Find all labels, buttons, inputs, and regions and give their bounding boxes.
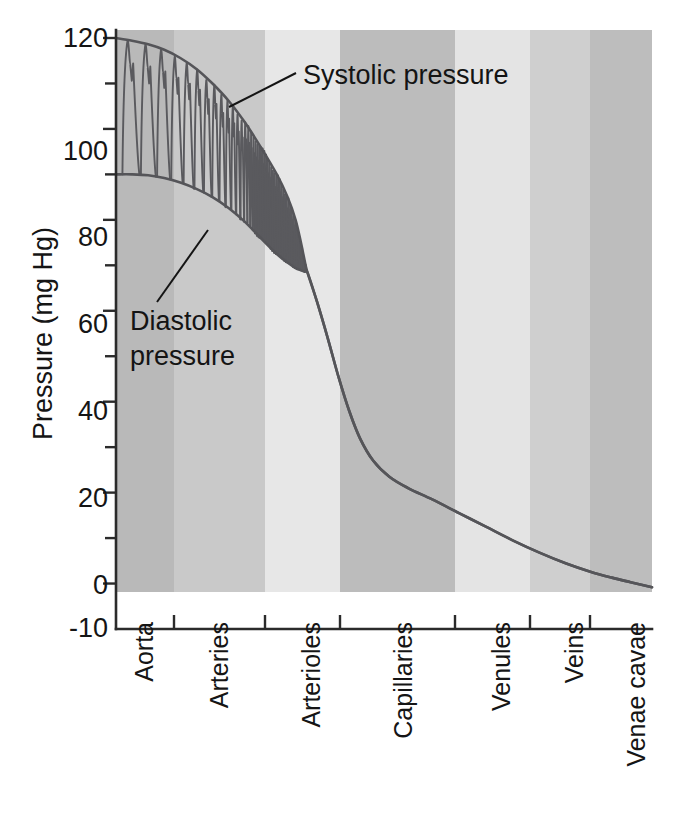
blood-pressure-chart: 120 100 80 60 40 20 0 -10 Pressure (mg H… (0, 0, 679, 819)
category-label-arterioles: Arterioles (297, 622, 325, 728)
diastolic-annotation-line1: Diastolic (130, 306, 232, 336)
y-axis-title: Pressure (mg Hg) (28, 227, 58, 440)
band-venae-cavae (590, 30, 652, 592)
y-tick-labels: 120 100 80 60 40 20 0 -10 (63, 23, 108, 643)
category-label-veins: Veins (560, 622, 588, 683)
y-tick-label-20: 20 (78, 483, 108, 513)
category-label-aorta: Aorta (130, 622, 158, 682)
systolic-annotation-label: Systolic pressure (303, 60, 509, 90)
band-arterioles (265, 30, 340, 592)
band-venules (455, 30, 530, 592)
y-tick-label-60: 60 (78, 309, 108, 339)
category-label-venae-cavae: Venae cavae (622, 622, 650, 767)
category-label-arteries: Arteries (205, 622, 233, 708)
figure-container: 120 100 80 60 40 20 0 -10 Pressure (mg H… (0, 0, 679, 819)
category-label-venules: Venules (487, 622, 515, 711)
y-tick-label-120: 120 (63, 23, 108, 53)
category-label-capillaries: Capillaries (389, 622, 417, 739)
x-axis-ticks (174, 615, 590, 629)
x-category-labels: Aorta Arteries Arterioles Capillaries Ve… (130, 622, 650, 767)
y-tick-label-40: 40 (78, 396, 108, 426)
band-capillaries (340, 30, 455, 592)
y-tick-label-minus10: -10 (69, 613, 108, 643)
band-veins (530, 30, 590, 592)
diastolic-annotation-line2: pressure (130, 341, 235, 371)
y-tick-label-100: 100 (63, 136, 108, 166)
y-tick-label-0: 0 (93, 570, 108, 600)
y-tick-label-80: 80 (78, 222, 108, 252)
